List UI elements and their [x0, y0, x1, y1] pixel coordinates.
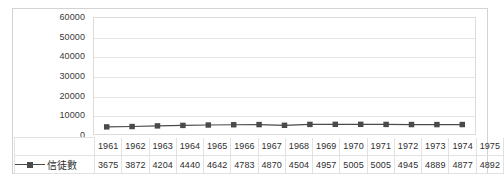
table-cell-value: 4877 [449, 156, 476, 174]
table-cell-year: 1963 [149, 138, 176, 156]
plot-region [93, 17, 476, 135]
data-point-marker [307, 122, 312, 127]
table-cell-value: 4204 [149, 156, 176, 174]
gridline [94, 116, 475, 117]
table-cell-value: 3872 [122, 156, 149, 174]
chart-frame: 0100002000030000400005000060000 19611962… [12, 8, 488, 174]
table-cell-year: 1968 [285, 138, 312, 156]
legend-blank-cell [15, 138, 95, 156]
data-point-marker [231, 122, 236, 127]
table-cell-year: 1972 [394, 138, 421, 156]
table-cell-year: 1975 [476, 138, 503, 156]
table-cell-value: 4504 [285, 156, 312, 174]
legend-series-cell: 信徒數 [15, 156, 95, 174]
data-point-marker [434, 122, 439, 127]
y-axis: 0100002000030000400005000060000 [13, 17, 89, 135]
y-axis-tick-label: 40000 [59, 51, 85, 61]
table-cell-value: 5005 [367, 156, 394, 174]
table-cell-value: 5005 [340, 156, 367, 174]
data-point-marker [383, 122, 388, 127]
table-cell-value: 3675 [95, 156, 122, 174]
y-axis-tick-label: 10000 [59, 110, 85, 120]
gridline [94, 57, 475, 58]
table-cell-value: 4642 [204, 156, 231, 174]
table-cell-year: 1965 [204, 138, 231, 156]
data-point-marker [206, 122, 211, 127]
table-cell-year: 1966 [231, 138, 258, 156]
data-point-marker [409, 122, 414, 127]
legend-series-label: 信徒數 [47, 157, 77, 172]
data-table-grid: 1961196219631964196519661967196819691970… [14, 137, 504, 174]
table-row-years: 1961196219631964196519661967196819691970… [15, 138, 504, 156]
data-point-marker [129, 124, 134, 129]
table-cell-year: 1971 [367, 138, 394, 156]
plot-area [93, 17, 476, 135]
legend-line-marker-icon [15, 160, 45, 170]
table-cell-year: 1973 [422, 138, 449, 156]
table-cell-value: 4440 [176, 156, 203, 174]
y-axis-tick-label: 60000 [59, 12, 85, 22]
table-cell-year: 1970 [340, 138, 367, 156]
data-point-marker [333, 122, 338, 127]
table-cell-value: 4889 [422, 156, 449, 174]
table-row-values: 信徒數 367538724204444046424783487045044957… [15, 156, 504, 174]
table-cell-value: 4957 [313, 156, 340, 174]
y-axis-tick-label: 30000 [59, 71, 85, 81]
table-cell-value: 4945 [394, 156, 421, 174]
data-point-marker [155, 123, 160, 128]
data-table: 1961196219631964196519661967196819691970… [14, 137, 487, 173]
gridline [94, 38, 475, 39]
data-point-marker [358, 122, 363, 127]
table-cell-year: 1964 [176, 138, 203, 156]
gridline [94, 97, 475, 98]
table-cell-year: 1962 [122, 138, 149, 156]
data-point-marker [460, 122, 465, 127]
data-point-marker [104, 124, 109, 129]
data-point-marker [282, 123, 287, 128]
table-cell-value: 4783 [231, 156, 258, 174]
table-cell-value: 4870 [258, 156, 285, 174]
y-axis-tick-label: 20000 [59, 91, 85, 101]
data-point-marker [180, 123, 185, 128]
table-cell-value: 4892 [476, 156, 503, 174]
data-point-marker [256, 122, 261, 127]
y-axis-tick-label: 50000 [59, 32, 85, 42]
table-cell-year: 1969 [313, 138, 340, 156]
table-cell-year: 1961 [95, 138, 122, 156]
gridline [94, 77, 475, 78]
table-cell-year: 1974 [449, 138, 476, 156]
table-cell-year: 1967 [258, 138, 285, 156]
